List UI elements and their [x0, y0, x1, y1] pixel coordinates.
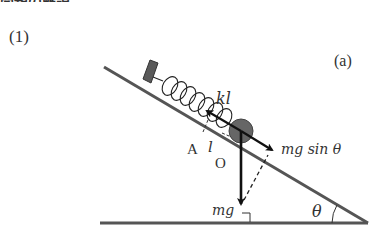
label-displacement: l — [208, 138, 213, 156]
decomposition-dash — [244, 155, 268, 200]
inclined-plane-diagram: kl A l O mg sin θ mg θ — [0, 0, 385, 237]
label-gravity: mg — [212, 202, 234, 218]
angle-arc — [332, 205, 337, 223]
label-point-a: A — [187, 141, 198, 157]
right-angle-marker — [242, 213, 250, 222]
label-point-o: O — [215, 155, 226, 171]
label-angle: θ — [312, 202, 322, 221]
wall-block — [143, 60, 158, 83]
label-gravity-component: mg sin θ — [281, 141, 342, 157]
label-spring-force: kl — [216, 89, 231, 108]
